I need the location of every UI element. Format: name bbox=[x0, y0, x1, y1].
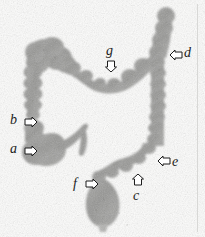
annotation-arrow-c-up-icon bbox=[131, 172, 145, 190]
annotation-label-f: f bbox=[73, 177, 77, 191]
annotation-label-e: e bbox=[172, 155, 178, 169]
annotation-label-a: a bbox=[10, 142, 17, 156]
annotation-arrow-g-down-icon bbox=[104, 58, 118, 76]
barium-enema-figure: abcdefg bbox=[0, 0, 205, 237]
annotation-arrow-a-right-icon bbox=[24, 143, 38, 161]
annotation-arrow-f-right-icon bbox=[85, 176, 99, 194]
annotation-label-b: b bbox=[10, 113, 17, 127]
annotation-arrow-e-left-icon bbox=[157, 153, 171, 171]
annotation-arrow-d-left-icon bbox=[169, 47, 183, 65]
annotation-label-c: c bbox=[133, 189, 139, 203]
annotation-label-g: g bbox=[106, 44, 113, 58]
annotation-arrow-b-right-icon bbox=[24, 114, 38, 132]
annotation-label-d: d bbox=[184, 46, 191, 60]
film-edge-line bbox=[197, 4, 198, 232]
